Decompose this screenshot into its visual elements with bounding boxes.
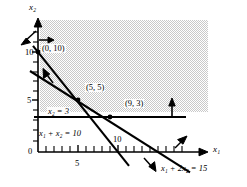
vertex-label-5-5: (5, 5) <box>85 83 105 92</box>
x-axis-label: x₁ <box>213 145 220 154</box>
y-tick-label-10: 10 <box>25 48 34 57</box>
direction-arrow-x1-plus-x2-top <box>21 31 36 45</box>
y-axis-label: x₂ <box>29 3 36 12</box>
direction-arrow-x1-plus-x2-lower <box>144 158 156 172</box>
lp-graph-figure: x₂ x₁ 0 10 5 5 10 (0, 10) (5, 5) (9, 3) … <box>0 0 247 187</box>
x-axis <box>38 145 208 156</box>
vertex-dot-0-10 <box>36 50 41 55</box>
direction-arrow-x1-plus-2x2-lower <box>175 136 187 148</box>
constraint-label-x1-plus-2x2: x₁ + 2x₂ = 15 <box>161 164 207 173</box>
graph-canvas <box>0 0 247 187</box>
x-tick-label-10: 10 <box>113 135 122 144</box>
constraint-label-x2-eq-3: x₂ = 3 <box>47 107 70 116</box>
vertex-dot-9-3 <box>108 115 113 120</box>
vertex-label-0-10: (0, 10) <box>41 44 66 53</box>
x-tick-label-5: 5 <box>75 159 79 168</box>
vertex-label-9-3: (9, 3) <box>124 99 144 108</box>
vertex-dot-5-5 <box>76 98 81 103</box>
constraint-label-x1-plus-x2: x₁ + x₂ = 10 <box>39 129 81 138</box>
y-tick-label-5: 5 <box>27 96 31 105</box>
origin-tick-label: 0 <box>28 147 32 156</box>
